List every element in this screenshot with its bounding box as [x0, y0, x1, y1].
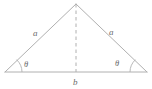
base-label-b: b: [73, 78, 78, 87]
side-label-a-left: a: [33, 29, 38, 38]
angle-arc-right: [130, 60, 135, 72]
angle-arc-left: [17, 60, 22, 72]
angle-label-theta-right: θ: [115, 59, 119, 68]
angle-label-theta-left: θ: [24, 60, 28, 69]
triangle-side-left: [5, 4, 76, 72]
triangle-side-right: [76, 4, 147, 72]
side-label-a-right: a: [109, 28, 114, 37]
geometry-diagram: a a θ θ b: [0, 0, 152, 89]
isosceles-triangle-figure: [0, 0, 152, 89]
